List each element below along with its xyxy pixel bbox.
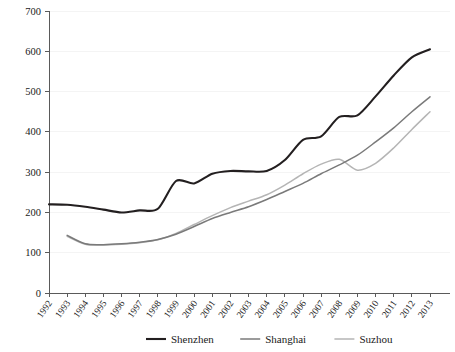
x-tick-label: 2010	[362, 298, 381, 320]
legend-label-shenzhen: Shenzhen	[171, 333, 214, 345]
chart-container: 0100200300400500600700199219931994199519…	[0, 0, 455, 352]
y-axis-ticks: 0100200300400500600700	[25, 6, 49, 299]
line-chart: 0100200300400500600700199219931994199519…	[0, 0, 455, 352]
x-tick-label: 1997	[126, 298, 145, 320]
x-tick-label: 2013	[416, 298, 435, 320]
x-tick-label: 2007	[307, 298, 326, 320]
x-tick-label: 2002	[216, 298, 235, 320]
x-tick-label: 2000	[180, 298, 199, 320]
y-tick-label: 300	[25, 167, 41, 178]
legend-label-suzhou: Suzhou	[359, 333, 393, 345]
y-tick-label: 0	[36, 288, 41, 299]
x-tick-label: 1998	[144, 298, 163, 320]
y-tick-label: 200	[25, 207, 41, 218]
y-tick-label: 600	[25, 46, 41, 57]
x-tick-label: 2005	[271, 298, 290, 320]
x-tick-label: 2008	[325, 298, 344, 320]
y-tick-label: 100	[25, 247, 41, 258]
x-tick-label: 2009	[343, 298, 362, 320]
x-tick-label: 2006	[289, 298, 308, 320]
x-tick-label: 1996	[108, 298, 127, 320]
x-tick-label: 2003	[235, 298, 254, 320]
x-tick-label: 1992	[35, 298, 54, 320]
x-axis-ticks: 1992199319941995199619971998199920002001…	[35, 293, 435, 320]
legend: ShenzhenShanghaiSuzhou	[146, 333, 393, 345]
x-tick-label: 2004	[253, 298, 272, 320]
x-tick-label: 1993	[53, 298, 72, 320]
legend-label-shanghai: Shanghai	[265, 333, 306, 345]
x-tick-label: 1999	[162, 298, 181, 320]
x-tick-label: 2011	[380, 298, 399, 319]
x-tick-label: 1995	[89, 298, 108, 320]
y-tick-label: 700	[25, 6, 41, 17]
y-tick-label: 500	[25, 86, 41, 97]
x-tick-label: 2001	[198, 298, 217, 320]
series-line-shenzhen	[49, 49, 430, 212]
x-tick-label: 2012	[398, 298, 417, 320]
y-tick-label: 400	[25, 126, 41, 137]
x-tick-label: 1994	[71, 298, 90, 320]
